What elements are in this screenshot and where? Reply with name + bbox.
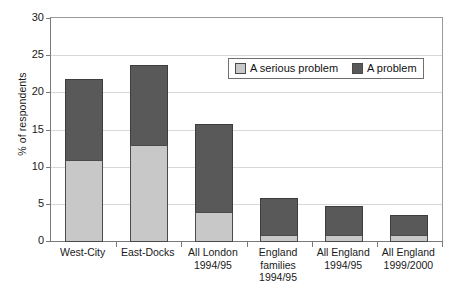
y-axis-tick bbox=[46, 241, 51, 242]
x-axis-label-line: 1994/95 bbox=[180, 259, 245, 272]
bar-segment-problem[interactable] bbox=[325, 206, 363, 236]
bar-stack[interactable] bbox=[130, 65, 168, 241]
legend-swatch-icon-serious-problem bbox=[235, 63, 246, 74]
y-axis-tick-label: 30 bbox=[20, 11, 44, 23]
bar-segment-serious-problem[interactable] bbox=[65, 160, 103, 242]
bar-segment-problem[interactable] bbox=[260, 198, 298, 235]
bar-segment-problem[interactable] bbox=[130, 65, 168, 147]
y-axis-tick-label: 20 bbox=[20, 85, 44, 97]
bar-group bbox=[181, 18, 246, 241]
x-axis-category-label: All England1999/2000 bbox=[376, 246, 441, 271]
bar-group bbox=[312, 18, 377, 241]
x-axis-label-line: England bbox=[246, 246, 311, 259]
bar-group bbox=[51, 18, 116, 241]
legend-swatch-icon-problem bbox=[352, 63, 363, 74]
legend-entry-problem: A problem bbox=[352, 62, 417, 74]
bar-segment-problem[interactable] bbox=[65, 79, 103, 161]
x-axis-category-label: All London1994/95 bbox=[180, 246, 245, 271]
x-axis-tick bbox=[442, 241, 443, 247]
bar-chart: % of respondents 051015202530 A serious … bbox=[0, 0, 450, 292]
bar-segment-problem[interactable] bbox=[195, 124, 233, 213]
y-axis-tick-labels: 051015202530 bbox=[10, 0, 44, 292]
x-axis-category-label: Englandfamilies1994/95 bbox=[246, 246, 311, 284]
bar-stack[interactable] bbox=[65, 79, 103, 241]
legend-entry-serious-problem: A serious problem bbox=[235, 62, 338, 74]
legend-label-problem: A problem bbox=[367, 62, 417, 74]
y-axis-tick-label: 10 bbox=[20, 160, 44, 172]
y-axis-tick-label: 0 bbox=[20, 234, 44, 246]
bar-stack[interactable] bbox=[260, 198, 298, 241]
x-axis-category-label: West-City bbox=[50, 246, 115, 259]
x-axis-label-line: All England bbox=[311, 246, 376, 259]
bar-group bbox=[377, 18, 442, 241]
bar-group bbox=[247, 18, 312, 241]
bar-group bbox=[116, 18, 181, 241]
x-axis-label-line: 1994/95 bbox=[246, 271, 311, 284]
bar-stack[interactable] bbox=[195, 124, 233, 241]
x-axis-category-labels: West-CityEast-DocksAll London1994/95Engl… bbox=[50, 246, 441, 292]
bar-segment-serious-problem[interactable] bbox=[325, 235, 363, 242]
x-axis-category-label: East-Docks bbox=[115, 246, 180, 259]
x-axis-label-line: East-Docks bbox=[115, 246, 180, 259]
legend-label-serious-problem: A serious problem bbox=[250, 62, 338, 74]
bar-segment-serious-problem[interactable] bbox=[130, 145, 168, 242]
x-axis-label-line: West-City bbox=[50, 246, 115, 259]
clipped-chart-title bbox=[0, 0, 450, 5]
x-axis-category-label: All England1994/95 bbox=[311, 246, 376, 271]
bar-segment-serious-problem[interactable] bbox=[390, 235, 428, 242]
y-axis-tick-label: 5 bbox=[20, 197, 44, 209]
x-axis-label-line: families bbox=[246, 259, 311, 272]
x-axis-label-line: All London bbox=[180, 246, 245, 259]
plot-area bbox=[50, 17, 443, 242]
x-axis-label-line: 1994/95 bbox=[311, 259, 376, 272]
y-axis-tick-label: 15 bbox=[20, 123, 44, 135]
bar-stack[interactable] bbox=[325, 206, 363, 241]
x-axis-label-line: 1999/2000 bbox=[376, 259, 441, 272]
y-axis-tick-label: 25 bbox=[20, 48, 44, 60]
bar-segment-serious-problem[interactable] bbox=[260, 235, 298, 242]
bar-segment-problem[interactable] bbox=[390, 215, 428, 236]
chart-legend: A serious problem A problem bbox=[228, 58, 424, 79]
bar-stack[interactable] bbox=[390, 215, 428, 241]
x-axis-label-line: All England bbox=[376, 246, 441, 259]
bar-segment-serious-problem[interactable] bbox=[195, 212, 233, 242]
